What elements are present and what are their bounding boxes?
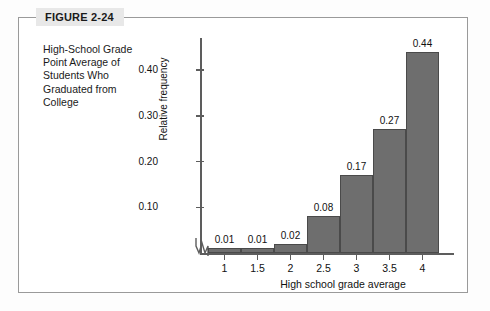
y-tick-mark bbox=[196, 115, 204, 117]
x-tick-label: 4 bbox=[403, 262, 443, 274]
x-axis-line bbox=[200, 253, 454, 255]
x-tick-mark bbox=[323, 254, 325, 260]
y-tick-mark bbox=[196, 69, 204, 71]
x-tick-mark bbox=[290, 254, 292, 260]
bar bbox=[307, 216, 340, 253]
x-tick-mark bbox=[257, 254, 259, 260]
y-tick-mark bbox=[196, 161, 204, 163]
bar bbox=[406, 52, 439, 253]
bar-value-label: 0.27 bbox=[368, 115, 412, 126]
x-tick-mark bbox=[224, 254, 226, 260]
bar bbox=[373, 129, 406, 253]
x-tick-mark bbox=[356, 254, 358, 260]
figure-number-badge: FIGURE 2-24 bbox=[36, 8, 124, 26]
x-axis-title: High school grade average bbox=[218, 278, 468, 290]
bar-value-label: 0.08 bbox=[302, 202, 346, 213]
y-axis-title-text: Relative frequency bbox=[158, 44, 169, 154]
y-tick-label: 0.20 bbox=[118, 156, 158, 167]
bar bbox=[241, 248, 274, 253]
x-tick-mark bbox=[389, 254, 391, 260]
y-tick-label: 0.30 bbox=[118, 110, 158, 121]
y-tick-label: 0.10 bbox=[118, 201, 158, 212]
x-tick-mark bbox=[422, 254, 424, 260]
chart-plot-area: Relative frequency 0.100.200.300.40 11.5… bbox=[160, 34, 460, 286]
bar-value-label: 0.44 bbox=[401, 38, 445, 49]
bar bbox=[340, 175, 373, 253]
bar bbox=[274, 244, 307, 253]
bar-value-label: 0.02 bbox=[269, 230, 313, 241]
figure-caption: High-School Grade Point Average of Stude… bbox=[43, 43, 151, 109]
bar bbox=[208, 248, 241, 253]
figure-page: FIGURE 2-24 High-School Grade Point Aver… bbox=[0, 0, 490, 311]
y-tick-mark bbox=[196, 207, 204, 209]
bar-value-label: 0.17 bbox=[335, 161, 379, 172]
y-axis-title: Relative frequency bbox=[158, 0, 169, 44]
